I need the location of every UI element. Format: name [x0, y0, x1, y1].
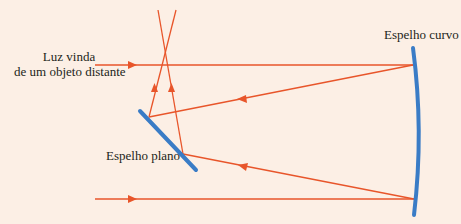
reflected-ray-top	[149, 65, 413, 117]
curved-mirror	[413, 48, 419, 215]
light-source-label: Luz vinda de um objeto distante	[14, 49, 124, 79]
arrow-icon	[238, 163, 248, 171]
eyepiece-ray-left	[149, 10, 176, 117]
arrow-icon	[237, 95, 247, 103]
flat-mirror-label: Espelho plano	[106, 148, 180, 163]
light-source-label-line2: de um objeto distante	[14, 64, 124, 79]
arrow-icon	[128, 195, 137, 203]
arrow-icon	[128, 61, 137, 69]
curved-mirror-label: Espelho curvo	[384, 27, 459, 42]
light-source-label-line1: Luz vinda	[14, 49, 124, 64]
reflected-ray-bottom	[183, 154, 414, 199]
arrow-icon	[168, 83, 175, 92]
